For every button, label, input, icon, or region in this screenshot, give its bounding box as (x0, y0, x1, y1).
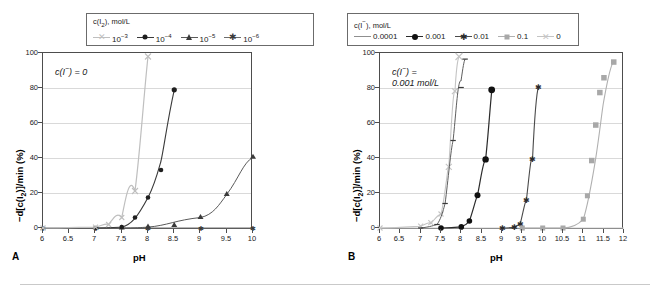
ytick-0-b: 0 (349, 223, 375, 232)
svg-text:✱: ✱ (535, 83, 542, 92)
cross-marker-icon: ✕ (537, 32, 554, 41)
legend-item-iodide-0-1[interactable]: 0.1 (498, 32, 528, 42)
legend-title-a: c(I2), mol/L (93, 17, 307, 29)
series-iodide-0-01: ✱ ✱ ✱ ✱ ✱ ✱ (499, 83, 543, 234)
legend-item-i2-1e-5[interactable]: 10−5 (181, 31, 216, 45)
figure-root: c(I2), mol/L ✕ 10−3 10−4 (0, 0, 670, 293)
legend-label-i2-1e-4: 10−4 (156, 31, 172, 45)
annotation-b: c(I−) = 0.001 mol/L (392, 63, 439, 89)
ytick-100-a: 100 (12, 48, 38, 57)
xtick-10-a: 10 (240, 234, 264, 243)
xtick-95-a: 9.5 (214, 234, 238, 243)
ytick-0-a: 0 (12, 223, 38, 232)
dash-marker-icon (354, 32, 371, 41)
x-axis-title-a: pH (133, 252, 146, 263)
cross-marker-icon: ✕ (93, 33, 110, 42)
square-marker-icon (498, 32, 515, 41)
xtick-6-a: 6 (30, 234, 54, 243)
legend-label-iodide-0-1: 0.1 (517, 32, 528, 42)
circle-marker-icon (406, 32, 423, 41)
legend-item-iodide-0-0001[interactable]: 0.0001 (354, 32, 397, 42)
x-axis-title-b: pH (490, 252, 503, 263)
series-iodide-0-001 (438, 86, 495, 230)
series-i2-1e-5 (119, 154, 256, 230)
legend-label-i2-1e-6: 10−6 (243, 31, 259, 45)
legend-item-iodide-0[interactable]: ✕ 0 (537, 32, 560, 42)
ytick-60-b: 60 (349, 118, 375, 127)
ytick-80-b: 80 (349, 83, 375, 92)
ytick-40-a: 40 (12, 153, 38, 162)
xtick-8-a: 8 (135, 234, 159, 243)
series-i2-1e-3 (41, 54, 152, 231)
legend-entries-a: ✕ 10−3 10−4 10−5 (93, 31, 307, 45)
annotation-b-line2: 0.001 mol/L (392, 78, 439, 88)
plot-area-b: ✱ ✱ ✱ ✱ ✱ ✱ (379, 52, 623, 229)
legend-item-i2-1e-4[interactable]: 10−4 (137, 31, 172, 45)
ytick-100-b: 100 (349, 48, 375, 57)
star-marker-icon: ✱ (224, 33, 241, 42)
ytick-20-b: 20 (349, 188, 375, 197)
series-i2-1e-4 (93, 87, 177, 230)
xtick-12-b: 12 (611, 234, 635, 243)
star-marker-icon: ✱ (455, 32, 472, 41)
panel-label-a: A (12, 251, 19, 262)
legend-entries-b: 0.0001 0.001 ✱ 0.01 (354, 32, 572, 42)
annotation-b-line1: c(I−) = (392, 67, 417, 77)
xtick-85-a: 8.5 (161, 234, 185, 243)
legend-label-iodide-0-01: 0.01 (474, 32, 490, 42)
legend-item-i2-1e-6[interactable]: ✱ 10−6 (224, 31, 259, 45)
panel-label-b: B (348, 251, 355, 262)
panel-b: c(I−), mol/L 0.0001 0.001 (335, 0, 670, 293)
legend-title-b: c(I−), mol/L (354, 17, 572, 30)
xtick-9-a: 9 (187, 234, 211, 243)
svg-text:✱: ✱ (499, 224, 506, 233)
svg-text:✱: ✱ (529, 155, 536, 164)
ytick-60-a: 60 (12, 118, 38, 127)
ytick-20-a: 20 (12, 188, 38, 197)
legend-label-iodide-0-0001: 0.0001 (373, 32, 397, 42)
legend-panel-a: c(I2), mol/L ✕ 10−3 10−4 (86, 13, 314, 46)
series-layer-a: ✱ ✱ ✱ ✱ ✱ (43, 53, 253, 230)
xtick-75-a: 7.5 (109, 234, 133, 243)
legend-item-i2-1e-3[interactable]: ✕ 10−3 (93, 31, 128, 45)
xtick-65-a: 6.5 (56, 234, 80, 243)
svg-text:✱: ✱ (523, 196, 530, 205)
legend-panel-b: c(I−), mol/L 0.0001 0.001 (347, 13, 579, 46)
annotation-a: c(I−) = 0 (55, 63, 87, 78)
legend-item-iodide-0-001[interactable]: 0.001 (406, 32, 445, 42)
panel-a: c(I2), mol/L ✕ 10−3 10−4 (0, 0, 335, 293)
plot-area-a: ✱ ✱ ✱ ✱ ✱ (42, 52, 252, 229)
circle-marker-icon (137, 33, 154, 42)
triangle-marker-icon (181, 33, 198, 42)
legend-item-iodide-0-01[interactable]: ✱ 0.01 (455, 32, 490, 42)
xtick-7-a: 7 (82, 234, 106, 243)
ytick-80-a: 80 (12, 83, 38, 92)
svg-text:✱: ✱ (250, 225, 256, 232)
legend-label-iodide-0-001: 0.001 (425, 32, 445, 42)
ytick-40-b: 40 (349, 153, 375, 162)
bottom-divider (20, 284, 650, 285)
legend-label-iodide-0: 0 (556, 32, 560, 42)
legend-label-i2-1e-3: 10−3 (112, 31, 128, 45)
legend-label-i2-1e-5: 10−5 (200, 31, 216, 45)
